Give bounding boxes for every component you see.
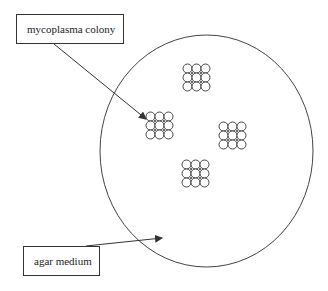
colony-top [183, 64, 210, 91]
colony-bottom [182, 160, 209, 187]
colony-right [219, 122, 246, 149]
colony-pointer-arrow [54, 44, 146, 119]
colony-left [146, 112, 173, 139]
colony-label: mycoplasma colony [27, 23, 115, 35]
medium-label-box: agar medium [23, 246, 100, 276]
colony-label-box: mycoplasma colony [16, 14, 124, 44]
medium-label: agar medium [34, 255, 92, 267]
medium-pointer-arrow [86, 238, 162, 246]
